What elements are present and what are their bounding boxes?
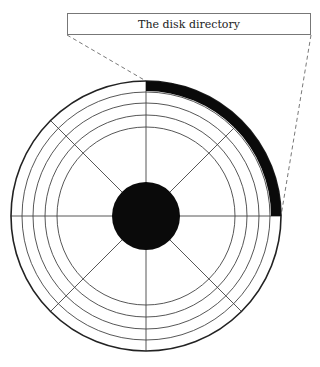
callout-label: The disk directory <box>138 18 240 31</box>
callout-label-box: The disk directory <box>67 13 311 35</box>
leader-line <box>281 35 311 216</box>
disk-diagram: The disk directory <box>0 0 320 367</box>
disk-platter-graphic <box>0 0 320 367</box>
center-hub <box>112 182 180 250</box>
leader-line <box>67 35 146 81</box>
